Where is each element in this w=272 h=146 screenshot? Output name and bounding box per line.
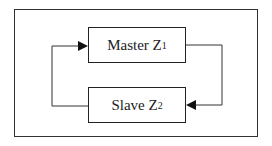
edge-slave-to-master <box>52 46 88 106</box>
slave-label: Slave Z <box>111 97 157 114</box>
master-node: Master Z1 <box>88 27 186 63</box>
connector-lines <box>0 0 272 146</box>
slave-subscript: 2 <box>158 100 163 111</box>
arrowhead-icon <box>78 41 88 51</box>
arrowhead-icon <box>186 100 196 110</box>
edge-master-to-slave <box>186 45 222 105</box>
master-subscript: 1 <box>162 40 167 51</box>
slave-node: Slave Z2 <box>88 87 186 123</box>
master-label: Master Z <box>107 37 162 54</box>
